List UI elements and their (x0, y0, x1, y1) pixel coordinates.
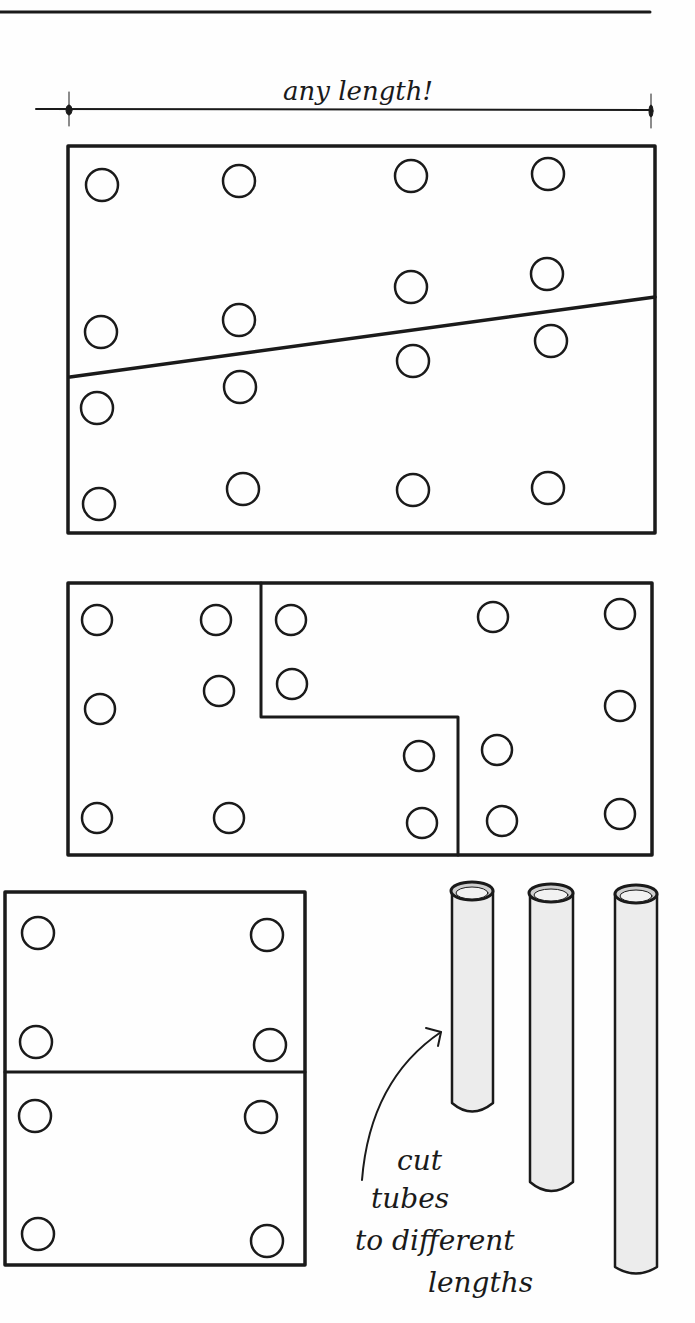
holes (19, 917, 286, 1257)
tube-note-line3: to different (355, 1224, 515, 1257)
panel-diagonal-cut (68, 146, 655, 533)
dimension-label: any length! (283, 76, 433, 106)
tube-note-line4: lengths (428, 1266, 533, 1299)
panel-stepped-cut (68, 583, 652, 855)
tube-note-line2: tubes (371, 1182, 449, 1215)
panel-split-halves (5, 892, 305, 1265)
tube-note-line1: cut (397, 1144, 443, 1177)
stepped-cut-line (261, 583, 458, 855)
tube-short (451, 882, 493, 1112)
tube-long (615, 885, 657, 1274)
holes (81, 158, 567, 520)
diagram-canvas: any length! cut tubes to different lengt… (0, 0, 695, 1323)
tube-medium (529, 884, 573, 1191)
